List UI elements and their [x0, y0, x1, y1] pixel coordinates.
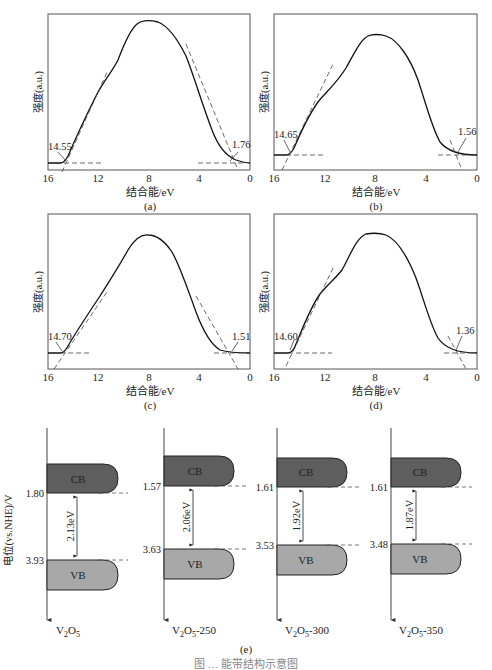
sample-name: V2O5-250	[172, 624, 217, 639]
annotation-leader	[456, 336, 462, 350]
band-diagram-v2o5-350: CB VB 1.87eV 1.61 3.48 V2O5-350	[370, 428, 472, 639]
edge-guide	[98, 493, 128, 560]
spectrum-curve	[48, 21, 250, 163]
annotation-leader	[56, 342, 62, 351]
annotation-label: 1.36	[456, 325, 474, 336]
x-axis-label: 结合能/eV	[126, 185, 175, 198]
svg-text:16: 16	[43, 371, 55, 383]
x-axis-label: 结合能/eV	[352, 185, 401, 198]
y-axis-label: 强度(a.u.)	[32, 70, 45, 113]
x-axis-label: 结合能/eV	[352, 384, 401, 397]
svg-text:12: 12	[93, 371, 104, 383]
svg-text:12: 12	[320, 371, 331, 383]
cb-label: CB	[413, 466, 428, 478]
band-diagram-v2o5-300: CB VB 1.92eV 1.61 3.53 V2O5-300	[256, 428, 359, 639]
svg-text:16: 16	[269, 371, 281, 383]
tangent-line	[286, 266, 334, 366]
panel-c: 14.70 1.51 16 12 8 4 0 结合能/eV (c) 强度(a.u…	[32, 214, 253, 412]
band-gap-label: 2.13eV	[65, 510, 76, 541]
annotation-leader	[284, 140, 290, 152]
vb-edge-value: 3.63	[143, 544, 161, 555]
vb-edge-value: 3.93	[26, 555, 44, 566]
y-axis-label: 强度(a.u.)	[32, 270, 45, 313]
svg-text:8: 8	[146, 371, 152, 383]
sample-name: V2O5-350	[399, 624, 444, 639]
panel-e: 电位(vs.NHE)/V CB VB 2.13eV 1.80 3.93 V2O5…	[2, 428, 472, 656]
figure-caption: 图 … 能带结构示意图	[194, 657, 299, 670]
band-gap-label: 2.06eV	[181, 501, 192, 532]
edge-guide	[441, 487, 472, 544]
svg-text:0: 0	[474, 172, 480, 184]
annotation-leader	[458, 138, 466, 152]
panel-label: (e)	[240, 643, 253, 656]
tangent-line	[62, 70, 108, 172]
svg-text:8: 8	[372, 371, 378, 383]
spectrum-curve	[48, 235, 250, 353]
panel-b: 14.65 1.56 16 12 8 4 0 结合能/eV (b) 强度(a.u…	[258, 14, 480, 213]
cb-label: CB	[71, 473, 86, 485]
annotation-leader	[232, 342, 238, 351]
annotation-label: 14.70	[48, 331, 72, 342]
cb-edge-value: 1.61	[370, 482, 388, 493]
svg-text:0: 0	[474, 371, 480, 383]
vb-edge-value: 3.48	[370, 539, 388, 550]
annotation-label: 14.55	[48, 141, 72, 152]
x-ticks: 16 12 8 4 0	[43, 371, 254, 383]
band-diagram-v2o5-250: CB VB 2.06eV 1.57 3.63 V2O5-250	[143, 428, 248, 639]
figure: 14.55 1.76 16 12 8 4 0 结合能/eV (a) 强度(a.u…	[0, 0, 492, 670]
spectrum-curve	[274, 35, 477, 156]
panel-label: (c)	[144, 399, 157, 412]
tangent-line	[282, 62, 334, 170]
svg-text:16: 16	[269, 172, 281, 184]
svg-text:4: 4	[196, 371, 202, 383]
tangent-line	[186, 44, 238, 170]
sample-name: V2O5	[56, 624, 80, 639]
vb-label: VB	[412, 553, 427, 565]
annotation-label: 1.76	[232, 139, 250, 150]
cb-label: CB	[299, 466, 314, 478]
band-gap-label: 1.87eV	[404, 499, 415, 530]
spectrum-curve	[274, 233, 477, 353]
panel-d: 14.60 1.36 16 12 8 4 0 结合能/eV (d) 强度(a.u…	[258, 214, 480, 412]
x-ticks: 16 12 8 4 0	[269, 371, 481, 383]
svg-text:12: 12	[93, 172, 104, 184]
svg-text:8: 8	[146, 172, 152, 184]
cb-edge-value: 1.80	[26, 488, 44, 499]
annotation-leader	[58, 152, 66, 161]
annotation-label: 1.56	[458, 126, 476, 137]
svg-text:4: 4	[196, 172, 202, 184]
edge-guide	[214, 486, 248, 549]
x-axis-label: 结合能/eV	[126, 384, 175, 397]
panel-label: (b)	[370, 200, 383, 213]
band-diagram-v2o5: CB VB 2.13eV 1.80 3.93 V2O5	[26, 428, 128, 639]
panel-label: (d)	[370, 399, 383, 412]
band-gap-label: 1.92eV	[291, 500, 302, 531]
svg-text:4: 4	[423, 371, 429, 383]
svg-text:12: 12	[320, 172, 331, 184]
cb-edge-value: 1.61	[256, 482, 274, 493]
annotation-label: 14.60	[274, 331, 298, 342]
y-axis-label: 强度(a.u.)	[258, 70, 271, 113]
x-ticks: 16 12 8 4 0	[43, 172, 254, 184]
cb-label: CB	[188, 465, 203, 477]
svg-text:0: 0	[247, 172, 253, 184]
plot-frame	[48, 214, 250, 369]
vb-label: VB	[187, 558, 202, 570]
plot-frame	[274, 14, 477, 170]
cb-edge-value: 1.57	[143, 481, 161, 492]
y-axis-label: 强度(a.u.)	[258, 270, 271, 313]
y-axis-label: 电位(vs.NHE)/V	[2, 494, 15, 565]
x-ticks: 16 12 8 4 0	[269, 172, 481, 184]
svg-text:8: 8	[372, 172, 378, 184]
annotation-label: 1.51	[232, 331, 250, 342]
edge-guide	[327, 487, 359, 545]
annotation-label: 14.65	[274, 129, 298, 140]
svg-text:4: 4	[423, 172, 429, 184]
sample-name: V2O5-300	[285, 624, 330, 639]
vb-label: VB	[298, 554, 313, 566]
panel-label: (a)	[144, 200, 157, 213]
panel-a: 14.55 1.76 16 12 8 4 0 结合能/eV (a) 强度(a.u…	[32, 14, 253, 213]
svg-text:0: 0	[247, 371, 253, 383]
vb-edge-value: 3.53	[256, 540, 274, 551]
svg-text:16: 16	[43, 172, 55, 184]
